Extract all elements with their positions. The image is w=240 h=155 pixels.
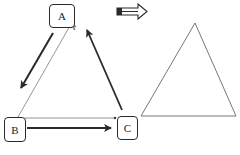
node-b: B bbox=[4, 117, 26, 142]
edge-end-dot bbox=[114, 117, 116, 119]
result-triangle bbox=[141, 23, 236, 116]
node-b-label: B bbox=[11, 124, 18, 136]
node-a: A bbox=[49, 4, 75, 28]
node-c: C bbox=[117, 116, 138, 140]
node-a-label: A bbox=[58, 10, 66, 22]
thin-edge-b-a bbox=[18, 24, 71, 117]
block-arrow-right-icon bbox=[117, 4, 147, 19]
node-c-label: C bbox=[124, 122, 131, 134]
arrow-c-to-a bbox=[87, 30, 122, 110]
arrow-a-to-b bbox=[21, 33, 53, 88]
